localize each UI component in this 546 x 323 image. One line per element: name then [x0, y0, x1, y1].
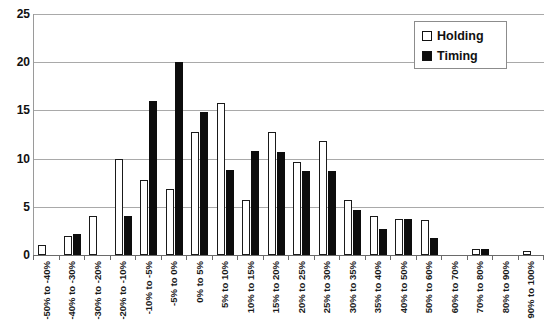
- bar-holding[interactable]: [140, 180, 148, 255]
- bar-timing[interactable]: [302, 171, 310, 255]
- bar-group: [340, 14, 366, 255]
- y-tick-label: 15: [2, 104, 30, 116]
- bar-group: [238, 14, 264, 255]
- x-tick: [543, 255, 544, 260]
- bar-holding[interactable]: [370, 216, 378, 255]
- x-tick: [263, 255, 264, 260]
- x-tick: [33, 255, 34, 260]
- bar-group: [519, 14, 545, 255]
- histogram-chart: 0510152025 -50% to -40%-40% to -30%-30% …: [0, 0, 546, 323]
- bar-holding[interactable]: [217, 103, 225, 255]
- x-tick: [492, 255, 493, 260]
- bar-holding[interactable]: [38, 245, 46, 255]
- x-tick: [288, 255, 289, 260]
- x-tick: [467, 255, 468, 260]
- x-tick: [84, 255, 85, 260]
- bar-holding[interactable]: [166, 189, 174, 255]
- bar-holding[interactable]: [344, 200, 352, 255]
- bar-holding[interactable]: [268, 132, 276, 255]
- y-tick-label: 25: [2, 8, 30, 20]
- x-tick: [135, 255, 136, 260]
- x-tick: [314, 255, 315, 260]
- bar-group: [289, 14, 315, 255]
- x-tick: [110, 255, 111, 260]
- x-axis-tick-label: 35% to 40%: [372, 261, 383, 313]
- legend-label-holding: Holding: [437, 30, 484, 43]
- bar-timing[interactable]: [200, 112, 208, 255]
- bar-group: [60, 14, 86, 255]
- x-axis-tick-label: 80% to 90%: [500, 261, 511, 313]
- x-axis-tick-label: 70% to 80%: [474, 261, 485, 313]
- x-axis-tick-label: -10% to -5%: [143, 261, 154, 314]
- bar-group: [34, 14, 60, 255]
- bar-group: [136, 14, 162, 255]
- bar-group: [315, 14, 341, 255]
- x-axis-tick-label: -30% to -20%: [92, 261, 103, 320]
- y-tick-label: 20: [2, 56, 30, 68]
- bar-holding[interactable]: [319, 141, 327, 255]
- x-tick: [339, 255, 340, 260]
- x-tick: [237, 255, 238, 260]
- x-tick: [518, 255, 519, 260]
- bar-group: [366, 14, 392, 255]
- x-axis-tick-label: 5% to 10%: [219, 261, 230, 308]
- bar-holding[interactable]: [242, 200, 250, 255]
- bar-group: [213, 14, 239, 255]
- x-axis-tick-label: 0% to 5%: [194, 261, 205, 303]
- legend: Holding Timing: [414, 21, 507, 69]
- x-axis-tick-label: -50% to -40%: [41, 261, 52, 320]
- bar-timing[interactable]: [124, 216, 132, 255]
- x-axis-tick-label: 50% to 60%: [423, 261, 434, 313]
- bar-timing[interactable]: [379, 229, 387, 255]
- y-tick-label: 0: [2, 249, 30, 261]
- legend-item-timing[interactable]: Timing: [422, 46, 506, 66]
- x-axis-tick-label: -40% to -30%: [66, 261, 77, 320]
- bar-holding[interactable]: [191, 132, 199, 255]
- x-axis-tick-label: -20% to -10%: [117, 261, 128, 320]
- bar-holding[interactable]: [421, 220, 429, 255]
- bar-group: [264, 14, 290, 255]
- bar-group: [85, 14, 111, 255]
- x-tick: [365, 255, 366, 260]
- x-tick: [59, 255, 60, 260]
- bar-group: [187, 14, 213, 255]
- bar-holding[interactable]: [115, 159, 123, 255]
- bar-timing[interactable]: [353, 210, 361, 255]
- x-axis-tick-label: 60% to 70%: [449, 261, 460, 313]
- bar-holding[interactable]: [395, 219, 403, 255]
- bar-timing[interactable]: [277, 152, 285, 255]
- y-tick-label: 10: [2, 153, 30, 165]
- bar-timing[interactable]: [404, 219, 412, 255]
- x-axis-tick-label: 30% to 35%: [347, 261, 358, 313]
- holding-swatch-icon: [422, 31, 432, 41]
- x-axis-tick-label: 10% to 15%: [245, 261, 256, 313]
- x-axis-tick-label: 25% to 30%: [321, 261, 332, 313]
- legend-label-timing: Timing: [437, 50, 478, 63]
- bar-timing[interactable]: [328, 171, 336, 255]
- bar-group: [391, 14, 417, 255]
- bar-timing[interactable]: [226, 170, 234, 255]
- x-tick: [161, 255, 162, 260]
- x-tick: [212, 255, 213, 260]
- bar-timing[interactable]: [73, 234, 81, 255]
- x-axis-labels: -50% to -40%-40% to -30%-30% to -20%-20%…: [33, 261, 544, 323]
- bar-timing[interactable]: [430, 238, 438, 255]
- x-axis-tick-label: 20% to 25%: [296, 261, 307, 313]
- x-axis-tick-label: 40% to 50%: [398, 261, 409, 313]
- x-tick: [186, 255, 187, 260]
- legend-item-holding[interactable]: Holding: [422, 26, 506, 46]
- x-axis-tick-label: 90% to 100%: [525, 261, 536, 319]
- bar-holding[interactable]: [293, 162, 301, 255]
- bar-holding[interactable]: [89, 216, 97, 255]
- bar-timing[interactable]: [175, 62, 183, 255]
- bar-group: [111, 14, 137, 255]
- y-axis: 0510152025: [0, 0, 30, 263]
- y-tick-label: 5: [2, 201, 30, 213]
- x-axis-tick-label: 15% to 20%: [270, 261, 281, 313]
- x-axis-ticks: [33, 255, 544, 260]
- x-tick: [390, 255, 391, 260]
- x-tick: [416, 255, 417, 260]
- bar-timing[interactable]: [149, 101, 157, 255]
- bar-timing[interactable]: [251, 151, 259, 255]
- bar-holding[interactable]: [64, 236, 72, 255]
